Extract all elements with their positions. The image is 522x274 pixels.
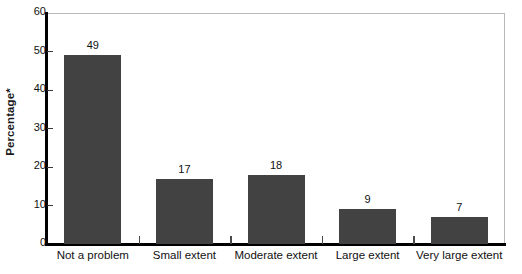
bar <box>431 217 488 244</box>
bar-value-label: 49 <box>64 39 121 51</box>
y-axis-title-text: Percentage* <box>4 88 16 156</box>
x-separator-tick <box>230 236 231 244</box>
bar-value-label: 9 <box>339 193 396 205</box>
x-axis-labels: Not a problemSmall extentModerate extent… <box>47 249 505 271</box>
bar-group: 49 <box>64 13 121 244</box>
bar-value-label: 17 <box>156 163 213 175</box>
x-tick-label: Small extent <box>139 249 231 261</box>
bar-group: 18 <box>248 13 305 244</box>
y-tick-label: 50 <box>34 44 46 56</box>
y-tick-label: 60 <box>34 5 46 17</box>
y-axis-title: Percentage* <box>0 0 20 244</box>
x-tick-label: Moderate extent <box>230 249 322 261</box>
x-separator-tick <box>413 236 414 244</box>
bar <box>248 175 305 244</box>
x-separator-tick <box>139 236 140 244</box>
bar-group: 7 <box>431 13 488 244</box>
x-separator-tick <box>322 236 323 244</box>
y-tick-label: 30 <box>34 121 46 133</box>
bar-value-label: 18 <box>248 159 305 171</box>
x-tick-label: Not a problem <box>47 249 139 261</box>
bar-group: 9 <box>339 13 396 244</box>
x-tick-label: Large extent <box>322 249 414 261</box>
bars-layer: 49171897 <box>47 13 505 244</box>
y-tick-label: 0 <box>40 236 46 248</box>
bar-chart: Percentage* 0102030405060 49171897 Not a… <box>0 0 522 274</box>
bar-value-label: 7 <box>431 201 488 213</box>
y-tick-label: 20 <box>34 159 46 171</box>
bar <box>64 55 121 244</box>
bar <box>339 209 396 244</box>
y-tick-label: 40 <box>34 82 46 94</box>
x-tick-label: Very large extent <box>413 249 505 261</box>
y-tick-label: 10 <box>34 198 46 210</box>
bar <box>156 179 213 244</box>
bar-group: 17 <box>156 13 213 244</box>
